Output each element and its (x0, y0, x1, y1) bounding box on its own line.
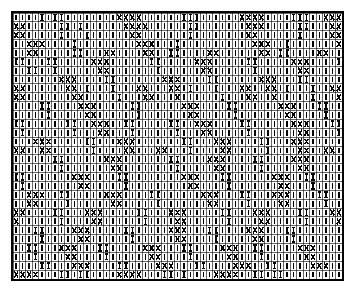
stitch-chart-grid[interactable] (13, 13, 342, 279)
stitch-chart-frame (11, 11, 344, 281)
